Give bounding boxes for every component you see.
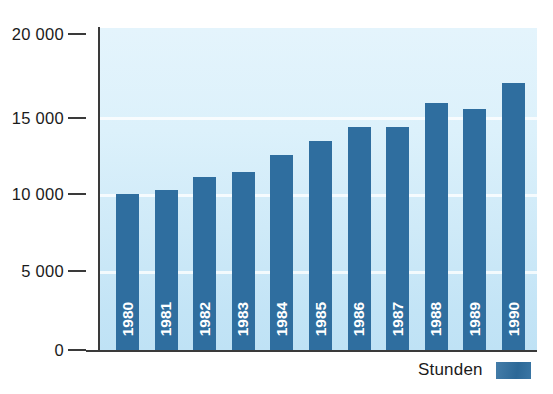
y-tick-label-10000: 10 000 <box>12 185 64 204</box>
y-tick-label-0: 0 <box>55 341 64 360</box>
bar-1988: 1988 <box>425 103 448 350</box>
bar-1987: 1987 <box>386 127 409 350</box>
y-tick-mark-5000 <box>68 270 86 272</box>
bar-year-label-1988: 1988 <box>426 288 446 350</box>
bar-1984: 1984 <box>270 155 293 350</box>
legend: Stunden <box>418 358 531 382</box>
y-axis: 20 000 15 000 10 000 5 000 0 <box>0 0 86 394</box>
plot-area: 1980198119821983198419851986198719881989… <box>100 28 537 350</box>
y-tick-label-5000: 5 000 <box>21 262 64 281</box>
y-tick-label-15000: 15 000 <box>12 109 64 128</box>
legend-label-stunden: Stunden <box>418 360 483 380</box>
y-tick-mark-10000 <box>68 193 86 195</box>
y-tick-mark-15000 <box>68 117 86 119</box>
bar-1989: 1989 <box>463 109 486 350</box>
bar-1980: 1980 <box>116 194 139 350</box>
bar-year-label-1984: 1984 <box>272 288 292 350</box>
x-axis-spine <box>86 350 537 352</box>
bar-year-label-1983: 1983 <box>233 288 253 350</box>
bar-year-label-1989: 1989 <box>465 288 485 350</box>
bar-year-label-1981: 1981 <box>156 288 176 350</box>
bar-year-label-1987: 1987 <box>388 288 408 350</box>
bar-chart-figure: 20 000 15 000 10 000 5 000 0 19801981198… <box>0 0 553 394</box>
bar-1981: 1981 <box>155 190 178 350</box>
bar-year-label-1982: 1982 <box>195 288 215 350</box>
bar-1986: 1986 <box>348 127 371 350</box>
bar-1982: 1982 <box>193 177 216 350</box>
bar-year-label-1985: 1985 <box>311 288 331 350</box>
bar-year-label-1980: 1980 <box>118 288 138 350</box>
bars-layer: 1980198119821983198419851986198719881989… <box>100 28 537 350</box>
y-tick-mark-20000 <box>68 33 86 35</box>
bar-year-label-1990: 1990 <box>504 288 524 350</box>
bar-1985: 1985 <box>309 141 332 350</box>
bar-1990: 1990 <box>502 83 525 350</box>
legend-swatch-stunden <box>496 362 531 379</box>
y-tick-mark-0 <box>68 349 86 351</box>
bar-year-label-1986: 1986 <box>349 288 369 350</box>
bar-1983: 1983 <box>232 172 255 350</box>
y-tick-label-20000: 20 000 <box>12 25 64 44</box>
